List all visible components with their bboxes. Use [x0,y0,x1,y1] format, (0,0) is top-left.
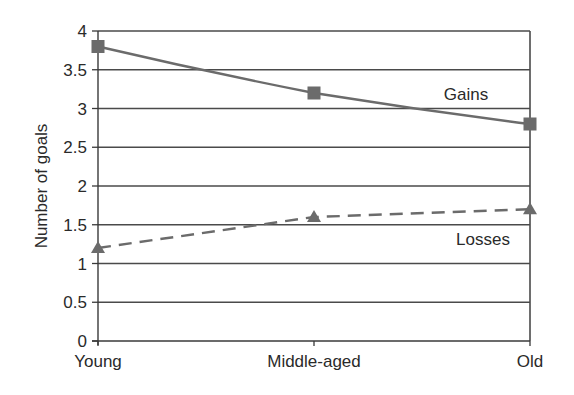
y-tick-label: 1.5 [63,216,87,235]
x-tick-label: Middle-aged [267,352,361,371]
y-tick-label: 3 [78,100,87,119]
losses-label: Losses [456,230,510,249]
y-tick-label: 1 [78,255,87,274]
gains-label: Gains [444,85,488,104]
x-tick-label: Young [74,352,122,371]
x-axis-tick-labels: YoungMiddle-agedOld [74,352,543,371]
y-tick-label: 0 [78,332,87,351]
square-marker [92,40,105,53]
y-tick-label: 4 [78,22,87,41]
y-tick-label: 2.5 [63,138,87,157]
axes [92,31,530,346]
line-chart: 00.511.522.533.54 YoungMiddle-agedOld Ga… [0,0,574,395]
y-tick-label: 2 [78,177,87,196]
y-tick-label: 3.5 [63,61,87,80]
square-marker [308,87,321,100]
y-axis-title: Number of goals [32,124,51,249]
triangle-marker [307,210,321,222]
x-tick-label: Old [517,352,543,371]
square-marker [524,118,537,131]
y-axis-tick-labels: 00.511.522.533.54 [63,22,87,351]
gridlines [98,31,530,341]
y-tick-label: 0.5 [63,293,87,312]
